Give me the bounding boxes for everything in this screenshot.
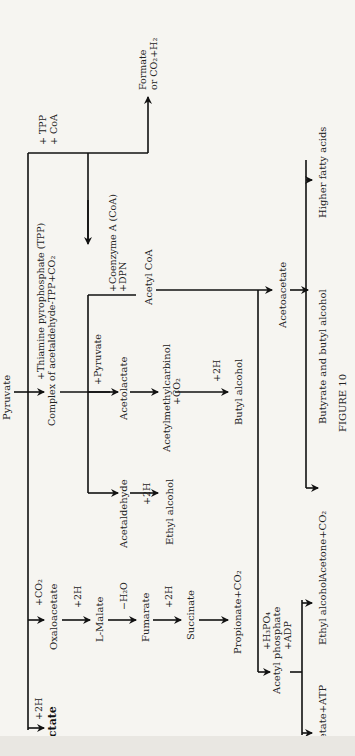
acetolactate-label: Acetolactate bbox=[118, 356, 129, 421]
ethyl-alcohol-2-label: Ethyl alcohol bbox=[317, 579, 328, 645]
butyl-alcohol-reagent-label: +2H bbox=[211, 360, 222, 382]
succinate-label: Succinate bbox=[185, 590, 196, 640]
formate-label: Formate bbox=[137, 49, 148, 90]
acetylmethylcarbinol-reagent-label: +CO₂ bbox=[171, 378, 182, 405]
succinate-reagent-label: +2H bbox=[163, 586, 174, 608]
dpn-label: +DPN bbox=[117, 262, 128, 292]
oxaloacetate-label: Oxaloacetate bbox=[48, 584, 59, 650]
acetone-label: Acetone+CO₂ bbox=[317, 511, 328, 581]
oxaloacetate-reagent-label: +CO₂ bbox=[33, 579, 44, 606]
ethyl-alcohol-label: Ethyl alcohol bbox=[164, 479, 175, 545]
acetyl-phosphate-label: Acetyl phosphate bbox=[271, 606, 282, 695]
tpp-label: + TPP bbox=[37, 114, 48, 145]
lactate-reagent-label: +2H bbox=[33, 698, 44, 720]
butyrate-label: Butyrate and butyl alcohol bbox=[317, 289, 328, 424]
acetoacetate-label: Acetoacetate bbox=[277, 262, 288, 329]
propionate-label: Propionate+CO₂ bbox=[232, 570, 243, 654]
complex-reagent-label: +Thiamine pyrophosphate (TPP) bbox=[35, 223, 46, 380]
figure-page: Pyruvate +Thiamine pyrophosphate (TPP) C… bbox=[0, 0, 355, 756]
acetyl-coa-label: Acetyl CoA bbox=[143, 249, 154, 306]
acetaldehyde-label: Acetaldehyde bbox=[118, 479, 129, 549]
malate-reagent-label: +2H bbox=[72, 586, 83, 608]
acetolactate-reagent-label: +Pyruvate bbox=[92, 334, 103, 385]
ethyl-alcohol-reagent-label: +2H bbox=[141, 483, 152, 505]
pathway-diagram: Pyruvate +Thiamine pyrophosphate (TPP) C… bbox=[0, 0, 355, 756]
labels: Pyruvate +Thiamine pyrophosphate (TPP) C… bbox=[1, 38, 348, 753]
higher-fatty-acids-label: Higher fatty acids bbox=[317, 127, 328, 218]
page-edge bbox=[0, 736, 355, 756]
coa-label: + CoA bbox=[48, 114, 59, 145]
acetyl-phosphate-reagent-2: +ADP bbox=[282, 621, 293, 650]
figure-caption: FIGURE 10 bbox=[337, 374, 348, 432]
butyl-alcohol-label: Butyl alcohol bbox=[233, 359, 244, 425]
formate-or-co2-label: or CO₂+H₂ bbox=[148, 38, 159, 90]
pyruvate-label: Pyruvate bbox=[1, 375, 12, 420]
malate-label: L-Malate bbox=[94, 597, 105, 642]
fumarate-label: Fumarate bbox=[140, 592, 151, 642]
complex-label: Complex of acetaldehyde-TPP+CO₂ bbox=[46, 256, 57, 426]
fumarate-reagent-label: −H₂O bbox=[118, 582, 129, 610]
